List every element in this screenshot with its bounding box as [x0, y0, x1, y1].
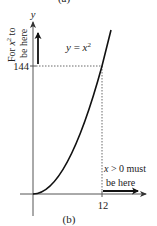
y-axis-label: y: [30, 9, 36, 20]
parabola-curve: [33, 30, 111, 194]
y-annotation-line2: be here: [18, 28, 29, 58]
curve-label: y = x2: [65, 41, 92, 53]
top-caption: (a): [58, 0, 71, 5]
x-annotation-line2: be here: [106, 177, 136, 188]
y-annotation-line1: For x2 to: [5, 28, 17, 62]
x-annotation-line1: x > 0 must: [103, 163, 146, 174]
parabola-figure: (a) y 144 12 y = x2 For x2 to be here x …: [0, 0, 157, 226]
y-annotation: For x2 to be here: [5, 28, 29, 62]
figure-canvas: (a) y 144 12 y = x2 For x2 to be here x …: [0, 0, 157, 226]
x-tick-label: 12: [98, 200, 109, 211]
bottom-caption: (b): [63, 213, 76, 226]
